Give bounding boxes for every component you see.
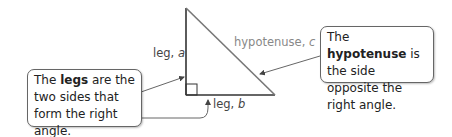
hypotenuse-callout: The hypotenuse is the side opposite the … xyxy=(320,26,434,83)
legs-arrow-b xyxy=(141,100,208,118)
hypotenuse-line xyxy=(186,8,275,95)
leg-b-label: leg, b xyxy=(213,97,245,111)
legs-arrow-a xyxy=(141,77,184,92)
hypotenuse-arrow xyxy=(260,56,320,74)
right-angle-marker xyxy=(186,84,197,95)
hypotenuse-label: hypotenuse, c xyxy=(234,35,315,49)
legs-callout: The legs are the two sides that form the… xyxy=(27,69,142,127)
leg-a-label: leg, a xyxy=(153,46,185,60)
